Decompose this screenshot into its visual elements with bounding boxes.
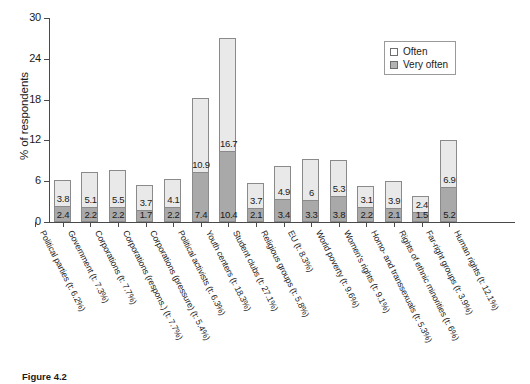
bar-segment-often[interactable]: 5.1 [81,172,98,207]
bar-segment-often[interactable]: 3.7 [136,185,153,210]
bar-segment-very-often[interactable]: 3.4 [274,199,291,222]
bar-segment-very-often[interactable]: 2.2 [81,207,98,222]
bar-segment-often[interactable]: 3.7 [247,183,264,208]
very-often-swatch-icon [390,61,398,69]
bar-value-label-very-often: 10.4 [219,210,238,220]
bar-segment-often[interactable]: 6 [302,159,319,200]
bar-value-label-often: 10.9 [192,160,211,170]
stacked-bar[interactable]: 3.72.1 [247,183,264,222]
bar-value-label-very-often: 3.4 [274,210,293,220]
legend-item-often: Often [390,45,448,58]
x-axis-tick [449,222,450,227]
bar-value-label-very-often: 2.1 [247,210,266,220]
bar-value-label-often: 16.7 [219,139,238,149]
bar-value-label-often: 3.7 [136,198,155,208]
bar-segment-often[interactable]: 5.5 [109,170,126,207]
bar-value-label-very-often: 3.3 [302,210,321,220]
bar-value-label-often: 3.1 [357,195,376,205]
stacked-bar[interactable]: 5.12.2 [81,172,98,222]
legend-label-often: Often [403,46,427,57]
bar-segment-often[interactable]: 3.8 [54,180,71,206]
x-axis-tick [422,222,423,227]
bar-value-label-very-often: 2.1 [385,210,404,220]
bar-value-label-very-often: 2.2 [357,210,376,220]
bar-segment-very-often[interactable]: 2.2 [109,207,126,222]
bar-value-label-often: 4.1 [164,195,183,205]
bar-segment-very-often[interactable]: 2.2 [357,207,374,222]
stacked-bar[interactable]: 63.3 [302,159,319,222]
chart-legend: Often Very often [384,41,456,75]
bar-value-label-very-often: 5.2 [440,210,459,220]
bar-segment-very-often[interactable]: 7.4 [192,172,209,222]
bar-value-label-often: 5.5 [109,195,128,205]
bar-value-label-very-often: 3.8 [330,210,349,220]
bar-segment-often[interactable]: 4.1 [164,179,181,207]
bar-segment-very-often[interactable]: 2.4 [54,206,71,222]
stacked-bar[interactable]: 3.92.1 [385,181,402,222]
bar-value-label-very-often: 1.5 [412,210,431,220]
bar-value-label-very-often: 1.7 [136,210,155,220]
bar-segment-very-often[interactable]: 2.1 [385,208,402,222]
bar-value-label-often: 5.1 [81,195,100,205]
stacked-bar[interactable]: 10.97.4 [192,98,209,222]
x-axis-tick [90,222,91,227]
x-axis-tick [256,222,257,227]
bar-segment-very-often[interactable]: 1.5 [412,212,429,222]
x-axis-tick [339,222,340,227]
x-axis-tick [284,222,285,227]
bar-segment-very-often[interactable]: 3.3 [302,200,319,222]
bar-value-label-often: 6 [302,188,321,198]
figure-caption: Figure 4.2 [22,371,67,382]
x-axis-tick [118,222,119,227]
stacked-bar[interactable]: 3.12.2 [357,186,374,222]
x-axis-tick [146,222,147,227]
bar-segment-very-often[interactable]: 2.2 [164,207,181,222]
stacked-bar[interactable]: 5.33.8 [330,160,347,222]
stacked-bar[interactable]: 3.82.4 [54,180,71,222]
often-swatch-icon [390,48,398,56]
bar-segment-very-often[interactable]: 5.2 [440,187,457,222]
bar-segment-often[interactable]: 3.9 [385,181,402,208]
bar-value-label-often: 4.9 [274,187,293,197]
bar-segment-often[interactable]: 10.9 [192,98,209,172]
bar-segment-often[interactable]: 16.7 [219,38,236,152]
x-axis-tick [366,222,367,227]
x-axis-tick [35,222,36,227]
stacked-bar[interactable]: 4.12.2 [164,179,181,222]
figure-container: % of respondents 0612182430 3.82.45.12.2… [0,0,530,384]
bar-value-label-often: 3.8 [54,194,73,204]
x-axis-tick [228,222,229,227]
x-axis-tick [201,222,202,227]
bar-value-label-very-often: 2.4 [54,210,73,220]
x-axis-tick [173,222,174,227]
bar-value-label-very-often: 7.4 [192,210,211,220]
legend-item-very-often: Very often [390,58,448,71]
bar-segment-often[interactable]: 5.3 [330,160,347,196]
x-axis-tick [63,222,64,227]
x-axis-tick [311,222,312,227]
bar-segment-often[interactable]: 6.9 [440,140,457,187]
bar-segment-often[interactable]: 4.9 [274,166,291,199]
stacked-bar[interactable]: 16.710.4 [219,38,236,222]
bar-value-label-often: 6.9 [440,175,459,185]
bar-segment-very-often[interactable]: 2.1 [247,208,264,222]
bar-segment-very-often[interactable]: 1.7 [136,210,153,222]
x-axis-tick [394,222,395,227]
bar-segment-very-often[interactable]: 10.4 [219,151,236,222]
bar-segment-often[interactable]: 3.1 [357,186,374,207]
legend-label-very-often: Very often [403,59,448,70]
bar-value-label-very-often: 2.2 [81,210,100,220]
stacked-bar[interactable]: 5.52.2 [109,170,126,222]
bar-value-label-very-often: 2.2 [109,210,128,220]
stacked-bar[interactable]: 4.93.4 [274,166,291,222]
stacked-bar[interactable]: 6.95.2 [440,140,457,222]
bar-value-label-often: 3.9 [385,196,404,206]
bar-value-label-very-often: 2.2 [164,210,183,220]
stacked-bar[interactable]: 2.41.5 [412,196,429,223]
bar-segment-very-often[interactable]: 3.8 [330,196,347,222]
stacked-bar[interactable]: 3.71.7 [136,185,153,222]
bar-value-label-often: 5.3 [330,184,349,194]
bar-value-label-often: 3.7 [247,196,266,206]
